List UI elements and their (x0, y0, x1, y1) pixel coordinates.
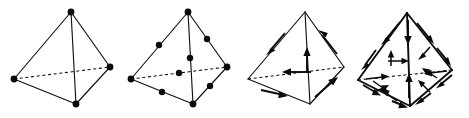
tet2-midnode-apex-right (204, 36, 210, 42)
tet2-midnode-apex-bottom (187, 55, 193, 61)
tet1-node-right (107, 64, 114, 71)
tet2-node-left (128, 76, 135, 83)
tet2-midnode-apex-left (156, 42, 162, 48)
tet1-node-bottom (73, 101, 80, 108)
tet2-node-right (224, 64, 231, 71)
tet1-node-left (11, 76, 18, 83)
tet2-node-bottom (190, 101, 197, 108)
tet2-midnode-left-right (176, 70, 182, 76)
figure-canvas (0, 0, 469, 118)
tet2-node-apex (185, 9, 192, 16)
tet1-node-apex (68, 9, 75, 16)
tetrahedral-element-figure (0, 0, 469, 118)
tet2-midnode-left-bottom (159, 89, 165, 95)
tet2-midnode-right-bottom (207, 83, 213, 89)
